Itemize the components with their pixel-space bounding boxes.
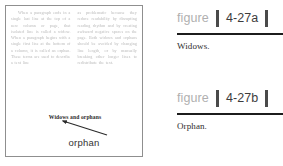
specimen-callout-line: Widows and orphans (11, 114, 139, 120)
figure-label-row-a: figure 4-27a (172, 8, 283, 28)
figure-divider-bar-trailing-b (265, 90, 268, 107)
figure-caption-a: Widows. (177, 41, 283, 51)
figure-divider-bar-leading-b (216, 90, 219, 107)
figure-rule-b (177, 113, 283, 115)
figure-block-b: figure 4-27b Orphan. (172, 88, 283, 131)
specimen-orphan-label: orphan (6, 137, 143, 148)
figure-rule-a (177, 33, 283, 35)
figure-divider-bar-trailing-a (265, 10, 268, 27)
figure-label-row-b: figure 4-27b (172, 88, 283, 108)
figure-number-a: 4-27a (226, 12, 258, 25)
specimen-text-columns: When a paragraph ends in a single last l… (11, 10, 137, 66)
figure-divider-bar-leading-a (216, 10, 219, 27)
figure-word-label-a: figure (177, 12, 209, 25)
specimen-column-left: When a paragraph ends in a single last l… (11, 10, 71, 66)
figure-number-b: 4-27b (226, 92, 258, 105)
specimen-column-right: as problematic because they reduce reada… (78, 10, 138, 66)
figure-word-label-b: figure (177, 92, 209, 105)
specimen-panel: When a paragraph ends in a single last l… (5, 5, 143, 157)
figure-block-a: figure 4-27a Widows. (172, 8, 283, 51)
figure-caption-b: Orphan. (177, 121, 283, 131)
